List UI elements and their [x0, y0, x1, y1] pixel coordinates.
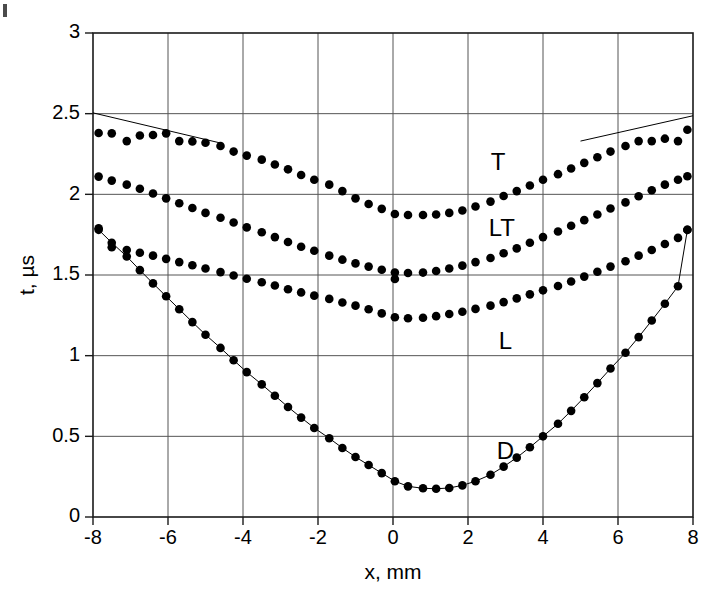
x-tick-label: -6 — [159, 526, 177, 548]
data-point-LT — [621, 198, 630, 207]
data-point-L — [216, 268, 225, 277]
data-point-L — [471, 305, 480, 314]
data-point-L — [338, 298, 347, 307]
data-point-D — [325, 434, 334, 443]
data-point-D — [242, 368, 251, 377]
x-tick-label: 8 — [687, 526, 698, 548]
data-point-T — [621, 142, 630, 151]
data-point-D — [107, 238, 116, 247]
data-point-D — [216, 344, 225, 353]
data-point-LT — [445, 264, 454, 273]
data-point-L — [149, 251, 158, 260]
data-point-L — [647, 246, 656, 255]
data-point-LT — [271, 233, 280, 242]
data-point-T — [567, 164, 576, 173]
data-point-D — [674, 282, 683, 291]
y-tick-label: 0 — [69, 504, 80, 526]
curve-label-L: L — [499, 327, 512, 354]
curve-label-T: T — [491, 148, 506, 175]
data-point-D — [621, 348, 630, 357]
data-point-T — [391, 210, 400, 219]
data-point-D — [297, 413, 306, 422]
x-tick-label: -4 — [234, 526, 252, 548]
data-point-L — [351, 301, 360, 310]
data-point-D — [606, 364, 615, 373]
data-point-LT — [458, 261, 467, 270]
x-tick-label: 6 — [612, 526, 623, 548]
data-point-LT — [242, 223, 251, 232]
y-tick-label: 2 — [69, 182, 80, 204]
data-point-L — [458, 307, 467, 316]
data-point-T — [539, 176, 548, 185]
data-point-L — [325, 295, 334, 304]
data-point-LT — [229, 218, 238, 227]
y-tick-labels: 00.511.522.53 — [52, 20, 80, 526]
data-point-T — [432, 210, 441, 219]
data-point-T — [512, 187, 521, 196]
data-point-L — [242, 274, 251, 283]
data-point-T — [325, 180, 334, 189]
data-point-LT — [364, 262, 373, 271]
data-point-LT — [471, 258, 480, 267]
data-point-L — [136, 248, 145, 257]
data-point-T — [661, 134, 670, 143]
data-point-L — [432, 312, 441, 321]
data-point-D — [404, 482, 413, 491]
data-point-D — [149, 279, 158, 288]
axis-titles: x, mmt, µs — [15, 255, 422, 583]
data-point-D — [486, 470, 495, 479]
data-point-D — [162, 292, 171, 301]
x-tick-label: 2 — [462, 526, 473, 548]
data-point-D — [445, 484, 454, 493]
data-point-L — [634, 251, 643, 260]
data-point-L — [606, 262, 615, 271]
data-point-LT — [593, 210, 602, 219]
data-point-LT — [661, 180, 670, 189]
data-point-D — [391, 477, 400, 486]
data-point-D — [229, 356, 238, 365]
data-point-D — [94, 226, 103, 235]
curve-label-LT: LT — [489, 214, 516, 241]
data-point-T — [201, 138, 210, 147]
data-point-D — [526, 443, 535, 452]
data-point-LT — [499, 249, 508, 258]
data-point-D — [661, 299, 670, 308]
data-point-LT — [432, 267, 441, 276]
data-point-T — [364, 200, 373, 209]
data-point-L — [593, 267, 602, 276]
data-point-D — [364, 461, 373, 470]
data-point-LT — [107, 176, 116, 185]
data-point-L — [621, 257, 630, 266]
data-point-L — [499, 298, 508, 307]
data-point-T — [271, 160, 280, 169]
data-point-LT — [539, 233, 548, 242]
data-point-L — [554, 282, 563, 291]
data-point-T — [351, 194, 360, 203]
data-point-T — [683, 126, 692, 135]
data-point-LT — [310, 247, 319, 256]
data-point-T — [634, 137, 643, 146]
data-point-LT — [257, 228, 266, 237]
data-point-L — [526, 290, 535, 299]
data-point-T — [310, 176, 319, 185]
data-point-T — [188, 137, 197, 146]
data-point-D — [458, 481, 467, 490]
data-point-L — [201, 264, 210, 273]
data-point-T — [471, 202, 480, 211]
data-point-L — [175, 258, 184, 267]
data-point-T — [419, 211, 428, 220]
data-point-LT — [683, 172, 692, 181]
data-point-LT — [567, 221, 576, 230]
data-point-T — [554, 170, 563, 179]
data-point-D — [554, 419, 563, 428]
data-point-T — [606, 147, 615, 156]
data-point-D — [257, 380, 266, 389]
data-point-T — [338, 187, 347, 196]
data-point-D — [567, 407, 576, 416]
data-point-T — [284, 165, 293, 174]
data-point-T — [377, 205, 386, 214]
data-point-T — [445, 209, 454, 218]
data-point-L — [297, 288, 306, 297]
data-point-T — [107, 129, 116, 138]
scatter-plot: 00.511.522.53 -8-6-4-202468 TLTLD x, mmt… — [0, 0, 723, 600]
